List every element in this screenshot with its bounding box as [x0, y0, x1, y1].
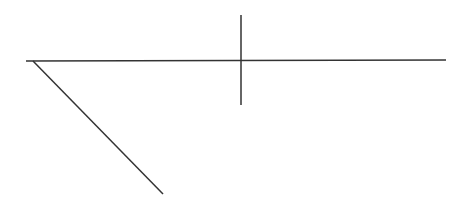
horizontal-line	[26, 60, 446, 61]
line-diagram	[0, 0, 469, 198]
